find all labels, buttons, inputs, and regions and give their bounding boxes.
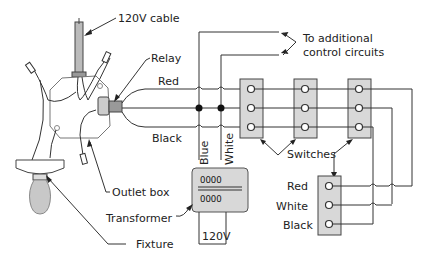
- junction-dot: [196, 105, 203, 112]
- label-sw-black: Black: [283, 219, 313, 232]
- label-fixture: Fixture: [136, 238, 174, 251]
- label-white: White: [223, 133, 236, 165]
- svg-text:OOOO: OOOO: [200, 175, 222, 185]
- label-sw-red: Red: [287, 180, 308, 193]
- label-transformer: Transformer: [105, 212, 172, 225]
- transformer: OOOO OOOO: [192, 168, 248, 212]
- relay: [98, 97, 122, 115]
- label-additional: To additional: [302, 32, 373, 45]
- label-blue: Blue: [198, 140, 211, 165]
- svg-text:OOOO: OOOO: [200, 194, 222, 204]
- label-red: Red: [158, 75, 179, 88]
- label-relay: Relay: [151, 52, 182, 65]
- label-outlet-box: Outlet box: [112, 186, 170, 199]
- junction-dot: [218, 105, 225, 112]
- label-additional-2: control circuits: [303, 46, 384, 59]
- label-cable: 120V cable: [118, 12, 180, 25]
- cable-120v: [72, 18, 86, 77]
- label-sw-white: White: [276, 200, 308, 213]
- label-black: Black: [152, 132, 182, 145]
- wiring-diagram: 120V cable Relay Red Black To additional…: [0, 0, 432, 266]
- wire-black: [122, 112, 245, 127]
- arrow-icon: [84, 29, 92, 36]
- label-120v: 120V: [202, 230, 231, 243]
- label-switches: Switches: [287, 148, 336, 161]
- wire-red: [122, 87, 245, 103]
